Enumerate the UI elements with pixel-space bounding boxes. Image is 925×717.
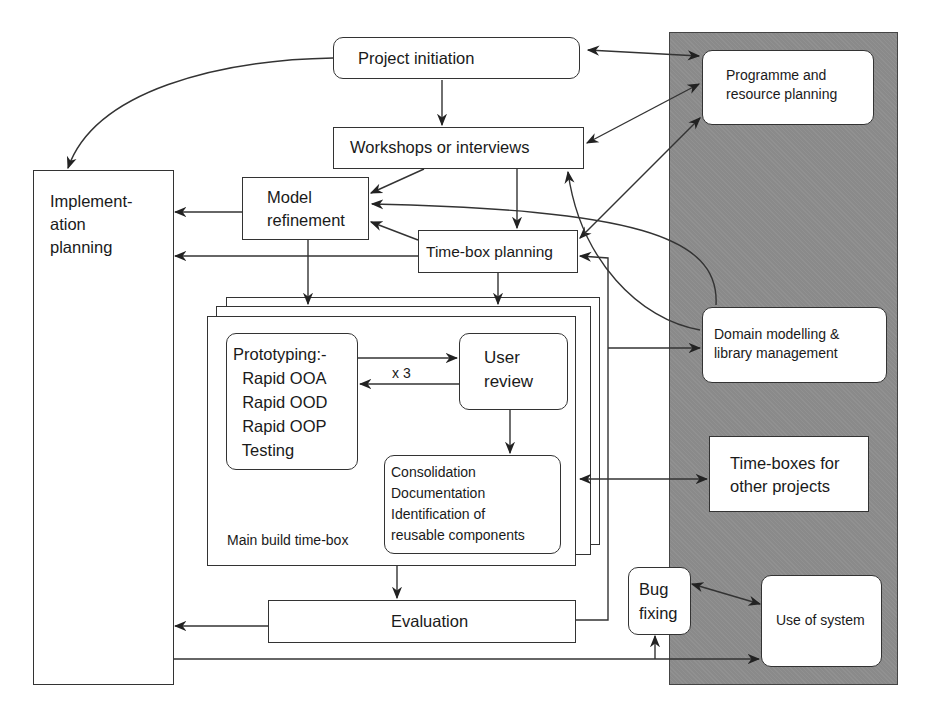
programme-planning-node: Programme and resource planning	[702, 50, 874, 125]
programme-planning-label: Programme and resource planning	[726, 66, 837, 104]
prototyping-node: Prototyping:- Rapid OOA Rapid OOD Rapid …	[226, 333, 358, 470]
model-refinement-node: Model refinement	[242, 177, 369, 240]
workshops-label: Workshops or interviews	[350, 137, 529, 158]
use-of-system-node: Use of system	[761, 575, 882, 667]
other-timeboxes-node: Time-boxes for other projects	[709, 436, 869, 512]
consolidation-node: Consolidation Documentation Identificati…	[384, 455, 561, 554]
evaluation-node: Evaluation	[268, 600, 576, 643]
model-refinement-label: Model refinement	[267, 186, 345, 232]
process-diagram: Main build time-box	[0, 0, 925, 717]
implementation-planning-node: Implement- ation planning	[33, 170, 174, 685]
domain-modelling-label: Domain modelling & library management	[714, 325, 839, 363]
user-review-node: User review	[459, 333, 568, 410]
bug-fixing-node: Bug fixing	[628, 567, 691, 635]
consolidation-label: Consolidation Documentation Identificati…	[391, 462, 525, 546]
project-initiation-label: Project initiation	[358, 48, 474, 69]
iteration-count-label: x 3	[392, 364, 411, 383]
timebox-planning-label: Time-box planning	[426, 241, 553, 262]
workshops-node: Workshops or interviews	[333, 127, 584, 169]
evaluation-label: Evaluation	[391, 611, 468, 632]
use-of-system-label: Use of system	[776, 611, 865, 630]
project-initiation-node: Project initiation	[333, 37, 580, 79]
domain-modelling-node: Domain modelling & library management	[702, 307, 887, 383]
prototyping-label: Prototyping:- Rapid OOA Rapid OOD Rapid …	[233, 342, 327, 462]
implementation-planning-label: Implement- ation planning	[50, 190, 133, 259]
other-timeboxes-label: Time-boxes for other projects	[730, 452, 839, 498]
user-review-label: User review	[484, 346, 533, 394]
bug-fixing-label: Bug fixing	[639, 577, 678, 625]
timebox-planning-node: Time-box planning	[418, 230, 578, 273]
